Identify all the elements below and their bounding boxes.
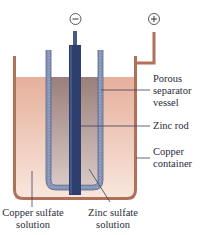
label-copper-sulfate: Copper sulfate solution xyxy=(0,207,66,231)
positive-terminal-icon xyxy=(149,14,160,25)
label-porous-separator: Porous separator vessel xyxy=(153,73,191,109)
zinc-rod xyxy=(69,31,81,195)
label-zinc-rod: Zinc rod xyxy=(153,120,189,132)
negative-terminal-icon xyxy=(70,14,81,25)
daniell-cell-diagram xyxy=(0,0,204,235)
label-zinc-sulfate: Zinc sulfate solution xyxy=(84,207,142,231)
label-copper-container: Copper container xyxy=(153,146,192,170)
